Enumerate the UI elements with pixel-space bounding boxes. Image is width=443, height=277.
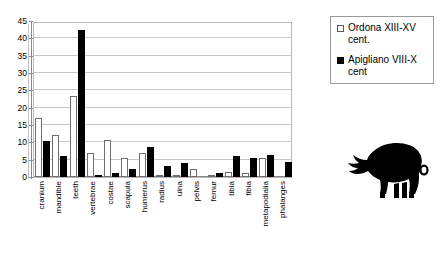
y-tick-label-35: 35 xyxy=(18,52,27,60)
x-axis-label-text: mandible xyxy=(55,181,63,213)
legend-item-apigliano[interactable]: Apigliano VIII-X cent xyxy=(337,54,428,77)
bar-group xyxy=(51,23,68,177)
y-tick-label-40: 40 xyxy=(18,34,27,42)
x-axis-label-text: ulna xyxy=(176,181,184,196)
bar[interactable] xyxy=(259,158,266,177)
x-axis-label-text: pelvis xyxy=(193,181,201,201)
solid-square-icon xyxy=(337,57,344,64)
bar[interactable] xyxy=(267,155,274,177)
legend-item-label: Ordona XIII-XV cent. xyxy=(348,22,428,45)
bar-group xyxy=(207,23,224,177)
x-axis-label-femur: femur xyxy=(206,179,223,243)
bar[interactable] xyxy=(147,147,154,177)
bar[interactable] xyxy=(95,175,102,177)
y-tick-label-25: 25 xyxy=(18,86,27,94)
bar[interactable] xyxy=(87,153,94,177)
x-axis-label-text: tibia xyxy=(228,181,236,196)
y-tick-label-10: 10 xyxy=(18,138,27,146)
figure-container: 051015202530354045 craniummandibleteethv… xyxy=(0,0,443,277)
y-axis-line xyxy=(31,21,32,179)
pig-silhouette-icon xyxy=(345,132,437,200)
bar-group xyxy=(189,23,206,177)
bar[interactable] xyxy=(216,173,223,177)
bar[interactable] xyxy=(78,30,85,177)
x-axis-label-fibia: fibia xyxy=(240,179,257,243)
x-axis-label-text: teeth xyxy=(72,181,80,199)
bar-group xyxy=(120,23,137,177)
y-tick-label-45: 45 xyxy=(18,17,27,25)
bar-group xyxy=(138,23,155,177)
x-axis-label-text: phalanges xyxy=(279,181,287,218)
bar[interactable] xyxy=(164,166,171,177)
plot-area xyxy=(33,22,292,178)
x-axis-label-text: vertebrae xyxy=(89,181,97,215)
x-axis-label-text: humerus xyxy=(141,181,149,212)
bar[interactable] xyxy=(52,135,59,177)
y-axis-line-secondary xyxy=(28,24,29,179)
x-axis-label-text: cranium xyxy=(38,181,46,209)
chart-legend: Ordona XIII-XV cent. Apigliano VIII-X ce… xyxy=(330,16,434,84)
x-axis-label-text: costae xyxy=(107,181,115,205)
bar-group xyxy=(172,23,189,177)
bar-group xyxy=(86,23,103,177)
x-axis-label-cranium: cranium xyxy=(33,179,50,243)
x-axis-label-text: scapula xyxy=(124,181,132,209)
bar[interactable] xyxy=(173,175,180,177)
bar-group xyxy=(241,23,258,177)
bar[interactable] xyxy=(129,169,136,177)
bar-group xyxy=(276,23,293,177)
bar[interactable] xyxy=(250,158,257,177)
bar-group xyxy=(34,23,51,177)
y-tick-label-5: 5 xyxy=(22,156,27,164)
x-axis-label-pelvis: pelvis xyxy=(188,179,205,243)
x-axis-label-text: radius xyxy=(158,181,166,203)
bar-group xyxy=(224,23,241,177)
bar[interactable] xyxy=(104,140,111,177)
bar[interactable] xyxy=(285,162,292,177)
bar-group xyxy=(155,23,172,177)
bar[interactable] xyxy=(233,156,240,177)
x-axis-labels: craniummandibleteethvertebraecostaescapu… xyxy=(33,179,292,245)
legend-item-label: Apigliano VIII-X cent xyxy=(348,54,428,77)
bar[interactable] xyxy=(181,163,188,177)
bar[interactable] xyxy=(225,172,232,177)
figure-caption xyxy=(0,264,443,277)
bar[interactable] xyxy=(242,173,249,178)
bar-group xyxy=(69,23,86,177)
bar[interactable] xyxy=(35,118,42,177)
x-axis-label-ulna: ulna xyxy=(171,179,188,243)
bar[interactable] xyxy=(156,175,163,177)
bar[interactable] xyxy=(121,158,128,177)
bar[interactable] xyxy=(43,141,50,177)
x-axis-label-humerus: humerus xyxy=(137,179,154,243)
x-axis-label-mandible: mandible xyxy=(50,179,67,243)
x-axis-label-tibia: tibia xyxy=(223,179,240,243)
x-axis-label-vertebrae: vertebrae xyxy=(85,179,102,243)
y-tick-label-0: 0 xyxy=(22,173,27,181)
x-axis-label-radius: radius xyxy=(154,179,171,243)
y-tick-label-30: 30 xyxy=(18,69,27,77)
bar[interactable] xyxy=(112,173,119,177)
bar[interactable] xyxy=(208,175,215,177)
x-axis-label-metapodialia: metapodialia xyxy=(257,179,274,243)
x-axis-label-text: metapodialia xyxy=(262,181,270,226)
legend-item-ordona[interactable]: Ordona XIII-XV cent. xyxy=(337,22,428,45)
y-tick-label-15: 15 xyxy=(18,121,27,129)
hollow-square-icon xyxy=(337,25,344,32)
bar-series-container xyxy=(34,23,291,177)
bar[interactable] xyxy=(139,153,146,177)
y-tick-label-20: 20 xyxy=(18,104,27,112)
x-axis-label-phalanges: phalanges xyxy=(275,179,292,243)
x-axis-label-scapula: scapula xyxy=(119,179,136,243)
x-axis-label-teeth: teeth xyxy=(68,179,85,243)
bar[interactable] xyxy=(60,156,67,177)
bar-group xyxy=(258,23,275,177)
x-axis-label-text: fibia xyxy=(245,181,253,196)
bar[interactable] xyxy=(190,169,197,177)
bar-group xyxy=(103,23,120,177)
x-axis-label-text: femur xyxy=(210,181,218,201)
bar[interactable] xyxy=(70,96,77,177)
x-axis-label-costae: costae xyxy=(102,179,119,243)
